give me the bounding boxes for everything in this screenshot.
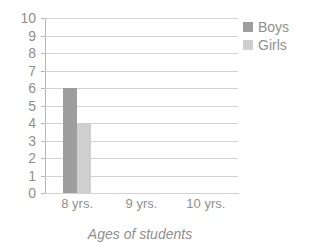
bar-chart: 109876543210 8 yrs.9 yrs.10 yrs. Ages of… (0, 0, 311, 252)
legend-swatch-icon (243, 22, 253, 32)
y-axis-tick-label: 1 (28, 169, 36, 183)
gridline-0 (45, 193, 238, 194)
bar-groups (45, 18, 238, 193)
bar-group (192, 18, 220, 193)
bar-boys[interactable] (63, 88, 77, 193)
y-axis-tick-label: 10 (20, 11, 36, 25)
x-axis-tick-label: 9 yrs. (126, 196, 158, 212)
y-axis-tick-label: 6 (28, 81, 36, 95)
chart-legend: BoysGirls (243, 18, 309, 54)
y-axis-labels: 109876543210 (0, 18, 41, 193)
legend-item-boys[interactable]: Boys (243, 18, 309, 35)
y-axis-tick-label: 2 (28, 151, 36, 165)
x-axis-tick-label: 10 yrs. (186, 196, 225, 212)
y-axis-tick-label: 3 (28, 134, 36, 148)
legend-label: Boys (258, 20, 289, 34)
x-axis-tick-label: 8 yrs. (61, 196, 93, 212)
y-axis-tick-label: 7 (28, 64, 36, 78)
legend-swatch-icon (243, 40, 253, 50)
bar-group (128, 18, 156, 193)
y-axis-tick-label: 8 (28, 46, 36, 60)
x-axis-labels: 8 yrs.9 yrs.10 yrs. (45, 196, 238, 214)
y-axis-tick-label: 5 (28, 99, 36, 113)
legend-item-girls[interactable]: Girls (243, 36, 309, 53)
x-axis-title: Ages of students (0, 226, 280, 242)
bar-girls[interactable] (77, 123, 91, 193)
y-axis-tick-label: 9 (28, 29, 36, 43)
y-axis-tick-label: 4 (28, 116, 36, 130)
plot-area (45, 18, 238, 193)
legend-label: Girls (258, 38, 287, 52)
bar-group (63, 18, 91, 193)
y-axis-tick-label: 0 (28, 186, 36, 200)
